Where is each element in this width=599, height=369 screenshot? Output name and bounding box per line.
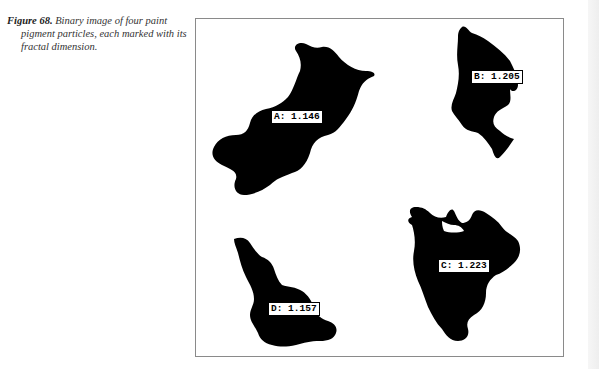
figure-label: Figure 68. xyxy=(7,15,53,26)
figure-caption: Figure 68. Binary image of four paint pi… xyxy=(7,14,191,53)
page-edge-shadow xyxy=(588,0,599,369)
particle-label-b: B: 1.205 xyxy=(471,70,523,84)
particle-b xyxy=(451,27,518,159)
particle-label-c: C: 1.223 xyxy=(438,259,490,273)
particle-c xyxy=(408,207,520,341)
binary-image-frame: A: 1.146 B: 1.205 C: 1.223 D: 1.157 xyxy=(195,18,564,357)
particle-label-a: A: 1.146 xyxy=(271,110,323,124)
particle-d xyxy=(234,238,337,347)
particle-label-d: D: 1.157 xyxy=(268,302,320,316)
